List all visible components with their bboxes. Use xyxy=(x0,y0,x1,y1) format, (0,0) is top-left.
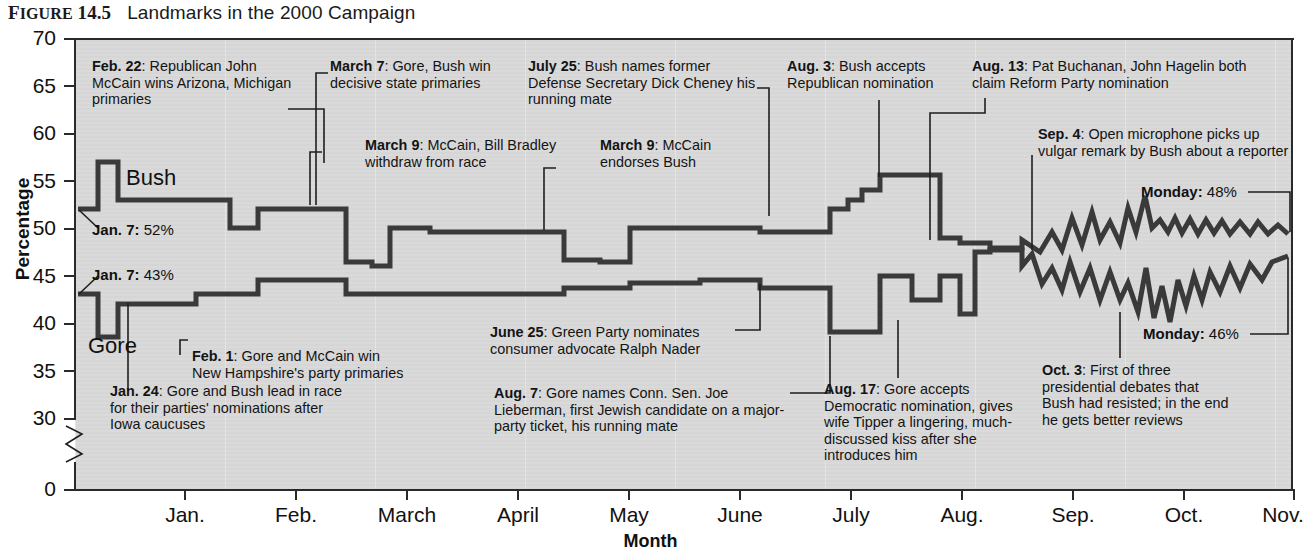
x-tick-sep xyxy=(1072,489,1074,500)
x-label-oct: Oct. xyxy=(1165,503,1204,527)
figure-number-label: FIGURE 14.5 xyxy=(8,2,111,23)
y-tick-label-30: 30 xyxy=(10,406,56,430)
point-label-bush-monday: Monday: 48% xyxy=(1141,183,1237,200)
y-axis-break-icon xyxy=(62,424,90,464)
series-label-gore: Gore xyxy=(88,333,137,359)
x-axis-line xyxy=(74,489,1294,491)
x-tick-july xyxy=(850,489,852,500)
x-tick-june xyxy=(739,489,741,500)
axis-top-line xyxy=(74,38,1294,40)
y-tick-65 xyxy=(64,85,74,87)
y-tick-label-35: 35 xyxy=(10,359,56,383)
x-label-aug: Aug. xyxy=(940,503,983,527)
x-tick-feb xyxy=(295,489,297,500)
y-tick-label-70: 70 xyxy=(10,26,56,50)
annotation-jan24: Jan. 24: Gore and Bush lead in race for … xyxy=(110,383,354,433)
figure-title: FIGURE 14.5Landmarks in the 2000 Campaig… xyxy=(8,2,415,24)
annotation-july25: July 25: Bush names former Defense Secre… xyxy=(528,58,760,108)
annotation-aug3: Aug. 3: Bush accepts Republican nominati… xyxy=(787,58,959,91)
x-tick-may xyxy=(628,489,630,500)
x-label-june: June xyxy=(717,503,763,527)
x-axis-title: Month xyxy=(0,531,1301,552)
annotation-feb1: Feb. 1: Gore and McCain win New Hampshir… xyxy=(192,348,407,381)
x-label-feb: Feb. xyxy=(275,503,317,527)
point-label-gore-jan7: Jan. 7: 43% xyxy=(92,266,174,283)
x-label-march: March xyxy=(378,503,436,527)
y-axis-title: Percentage xyxy=(12,129,34,329)
x-tick-nov xyxy=(1293,489,1295,500)
y-tick-55 xyxy=(64,180,74,182)
x-label-may: May xyxy=(609,503,649,527)
figure-title-text: Landmarks in the 2000 Campaign xyxy=(127,2,415,23)
annotation-feb22: Feb. 22: Republican John McCain wins Ari… xyxy=(92,58,297,108)
x-label-nov: Nov. xyxy=(1262,503,1304,527)
x-label-sep: Sep. xyxy=(1051,503,1094,527)
annotation-oct3: Oct. 3: First of three presidential deba… xyxy=(1042,362,1232,428)
series-label-bush: Bush xyxy=(126,165,176,191)
annotation-aug13: Aug. 13: Pat Buchanan, John Hagelin both… xyxy=(972,58,1277,91)
x-tick-march xyxy=(406,489,408,500)
y-tick-50 xyxy=(64,228,74,230)
x-label-april: April xyxy=(497,503,539,527)
x-tick-jan xyxy=(184,489,186,500)
y-tick-35 xyxy=(64,370,74,372)
point-label-bush-jan7: Jan. 7: 52% xyxy=(92,221,174,238)
annotation-june25: June 25: Green Party nominates consumer … xyxy=(490,324,740,357)
x-tick-oct xyxy=(1183,489,1185,500)
annotation-march9-withdraw: March 9: McCain, Bill Bradley withdraw f… xyxy=(365,137,567,170)
y-tick-0 xyxy=(64,489,74,491)
y-tick-label-65: 65 xyxy=(10,74,56,98)
x-label-jan: Jan. xyxy=(165,503,205,527)
x-label-july: July xyxy=(832,503,869,527)
y-tick-45 xyxy=(64,275,74,277)
annotation-march7: March 7: Gore, Bush win decisive state p… xyxy=(330,58,525,91)
annotation-aug17: Aug. 17: Gore accepts Democratic nominat… xyxy=(824,381,1019,464)
y-axis-line xyxy=(74,38,76,420)
y-tick-70 xyxy=(64,38,74,40)
y-tick-30 xyxy=(64,418,74,420)
annotation-aug7: Aug. 7: Gore names Conn. Sen. Joe Lieber… xyxy=(494,385,794,435)
y-tick-60 xyxy=(64,133,74,135)
y-axis-line-lower xyxy=(74,462,76,490)
annotation-sep4: Sep. 4: Open microphone picks up vulgar … xyxy=(1038,126,1293,159)
y-tick-label-0: 0 xyxy=(10,477,56,501)
annotation-march9-endorses: March 9: McCain endorses Bush xyxy=(600,137,750,170)
y-tick-40 xyxy=(64,323,74,325)
x-tick-april xyxy=(517,489,519,500)
point-label-gore-monday: Monday: 46% xyxy=(1143,325,1239,342)
x-tick-aug xyxy=(961,489,963,500)
